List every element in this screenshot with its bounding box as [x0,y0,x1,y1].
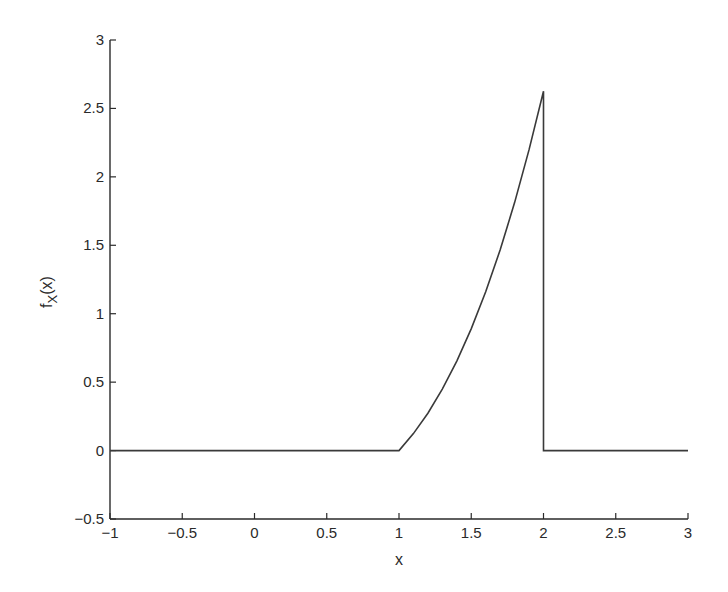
y-tick-label: 3 [96,31,104,48]
x-tick-label: 2 [539,524,547,541]
y-tick-label: 0 [96,442,104,459]
x-tick-labels: −1−0.500.511.522.53 [101,524,692,541]
x-tick-label: −1 [101,524,118,541]
x-tick-label: 3 [684,524,692,541]
y-tick-label: 0.5 [83,373,104,390]
y-axis-label: fX(x) [38,276,60,308]
y-tick-label: 2.5 [83,99,104,116]
x-axis-label: x [395,551,403,568]
axes [110,40,688,519]
y-tick-label: −0.5 [74,510,104,527]
y-tick-label: 1.5 [83,236,104,253]
x-tick-label: 2.5 [605,524,626,541]
density-curve [110,91,688,450]
tick-marks [110,40,688,519]
y-axis-label-tail: (x) [38,276,55,295]
y-tick-labels: −0.500.511.522.53 [74,31,104,527]
chart: −1−0.500.511.522.53 −0.500.511.522.53 x … [0,0,728,592]
x-tick-label: 1 [395,524,403,541]
y-tick-label: 2 [96,168,104,185]
x-tick-label: 1.5 [461,524,482,541]
x-tick-label: 0 [250,524,258,541]
x-tick-label: 0.5 [316,524,337,541]
x-tick-label: −0.5 [167,524,197,541]
y-axis-label-sub: X [45,294,60,303]
y-tick-label: 1 [96,305,104,322]
